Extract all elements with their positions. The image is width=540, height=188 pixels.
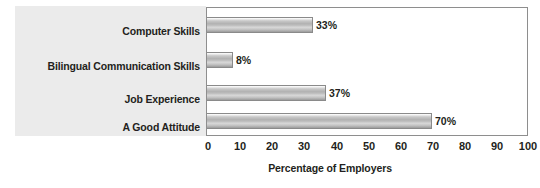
plot-area [206, 7, 528, 136]
x-tick-90: 90 [491, 140, 503, 153]
bar-value-bilingual-communication-skills: 8% [236, 54, 251, 66]
bar-chart: Computer Skills Bilingual Communication … [0, 0, 540, 188]
bar-computer-skills [207, 17, 313, 33]
bar-job-experience [207, 85, 326, 101]
x-tick-50: 50 [363, 140, 375, 153]
x-tick-70: 70 [427, 140, 439, 153]
bar-value-a-good-attitude: 70% [435, 115, 456, 127]
bar-value-computer-skills: 33% [316, 19, 337, 31]
category-label-bilingual-communication-skills: Bilingual Communication Skills [18, 60, 200, 72]
x-tick-40: 40 [331, 140, 343, 153]
x-tick-80: 80 [459, 140, 471, 153]
category-label-a-good-attitude: A Good Attitude [18, 121, 200, 133]
x-tick-30: 30 [298, 140, 310, 153]
category-label-job-experience: Job Experience [18, 93, 200, 105]
x-tick-20: 20 [266, 140, 278, 153]
x-tick-100: 100 [519, 140, 537, 153]
x-tick-10: 10 [234, 140, 246, 153]
bar-value-job-experience: 37% [329, 87, 350, 99]
x-axis-title: Percentage of Employers [268, 162, 392, 174]
x-tick-0: 0 [205, 140, 211, 153]
x-tick-60: 60 [395, 140, 407, 153]
x-axis-title-wrapper: Percentage of Employers [0, 162, 540, 174]
category-label-computer-skills: Computer Skills [18, 25, 200, 37]
category-label-panel: Computer Skills Bilingual Communication … [15, 6, 206, 136]
bar-bilingual-communication-skills [207, 52, 233, 68]
bar-a-good-attitude [207, 113, 432, 129]
